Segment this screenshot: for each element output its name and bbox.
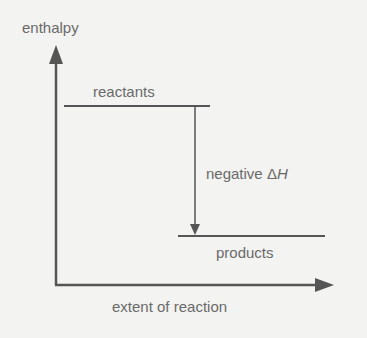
down-arrowhead-icon <box>190 224 200 235</box>
diagram-graphics <box>0 0 367 338</box>
enthalpy-diagram: enthalpy reactants negative ΔH products … <box>0 0 367 338</box>
y-axis <box>49 45 63 285</box>
delta-symbol: Δ <box>267 165 277 182</box>
enthalpy-change-label: negative ΔH <box>206 166 288 181</box>
enthalpy-change-prefix: negative <box>206 165 267 182</box>
x-axis-arrowhead-icon <box>315 278 334 292</box>
reactants-label: reactants <box>93 84 155 99</box>
products-label: products <box>216 245 274 260</box>
enthalpy-change-arrow <box>190 106 200 235</box>
x-axis-label: extent of reaction <box>112 299 227 314</box>
x-axis <box>55 278 334 292</box>
y-axis-label: enthalpy <box>22 20 79 35</box>
y-axis-arrowhead-icon <box>49 45 63 64</box>
enthalpy-symbol: H <box>277 165 288 182</box>
